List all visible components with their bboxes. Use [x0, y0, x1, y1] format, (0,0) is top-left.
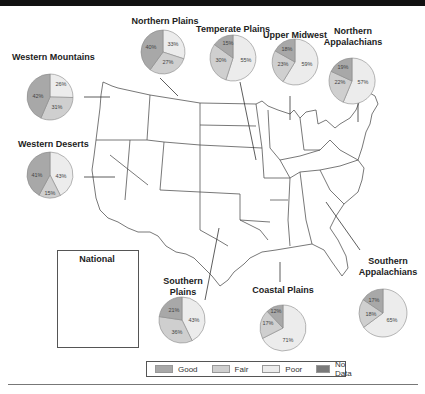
pie-coastal-plains: 71% 17% 12% [260, 305, 306, 351]
pie-temperate-plains: 55% 30% 15% [210, 35, 256, 81]
svg-text:55%: 55% [240, 57, 251, 63]
title-coastal-plains: Coastal Plains [248, 285, 318, 296]
svg-text:12%: 12% [270, 308, 281, 314]
svg-text:42%: 42% [32, 93, 43, 99]
title-line: Northern [322, 26, 384, 37]
svg-text:57%: 57% [357, 79, 368, 85]
legend: Good Fair Poor No Data [146, 361, 346, 377]
legend-item-no-data: No Data [316, 360, 356, 378]
pie-western-deserts: 43% 15% 41% [27, 152, 73, 198]
swatch-fair [212, 365, 230, 373]
title-western-deserts: Western Deserts [18, 139, 86, 150]
title-line: Southern [158, 276, 208, 287]
svg-text:17%: 17% [262, 320, 273, 326]
title-line: Southern [356, 256, 420, 267]
svg-text:21%: 21% [168, 307, 179, 313]
svg-text:15%: 15% [222, 40, 233, 46]
pie-western-mountains: 26% 31% 42% [27, 74, 73, 120]
title-line: Appalachians [322, 37, 384, 48]
legend-item-poor: Poor [262, 365, 302, 374]
bottom-divider [8, 384, 418, 385]
svg-text:18%: 18% [365, 311, 376, 317]
pie-northern-plains: 33% 27% 40% [141, 30, 185, 74]
svg-text:18%: 18% [281, 46, 292, 52]
legend-label: Good [178, 365, 198, 374]
svg-text:26%: 26% [55, 81, 66, 87]
legend-label: No Data [335, 360, 356, 378]
pie-southern-appalachians: 65% 18% 17% [359, 289, 407, 337]
svg-text:33%: 33% [167, 41, 178, 47]
svg-text:17%: 17% [368, 297, 379, 303]
pie-northern-appalachians: 57% 22% 19% [329, 58, 375, 104]
leader-northern-plains [160, 78, 178, 96]
legend-item-good: Good [155, 365, 198, 374]
svg-text:19%: 19% [337, 64, 348, 70]
title-line: Appalachians [356, 267, 420, 278]
svg-text:59%: 59% [301, 61, 312, 67]
pie-southern-plains: 43% 36% 21% [159, 297, 205, 343]
svg-text:23%: 23% [277, 61, 288, 67]
legend-item-fair: Fair [212, 365, 249, 374]
svg-text:22%: 22% [334, 79, 345, 85]
svg-text:40%: 40% [145, 44, 156, 50]
svg-text:43%: 43% [55, 173, 66, 179]
swatch-poor [262, 365, 280, 373]
title-line: Plains [158, 287, 208, 298]
svg-text:71%: 71% [282, 337, 293, 343]
legend-label: Fair [235, 365, 249, 374]
svg-text:30%: 30% [215, 57, 226, 63]
svg-text:65%: 65% [386, 317, 397, 323]
svg-text:41%: 41% [31, 172, 42, 178]
svg-text:31%: 31% [51, 104, 62, 110]
title-western-mountains: Western Mountains [12, 52, 90, 63]
svg-text:36%: 36% [171, 329, 182, 335]
title-southern-plains: Southern Plains [158, 276, 208, 298]
title-northern-appalachians: Northern Appalachians [322, 26, 384, 48]
title-upper-midwest: Upper Midwest [258, 30, 332, 41]
swatch-no-data [316, 365, 330, 373]
swatch-good [155, 365, 173, 373]
svg-text:15%: 15% [44, 190, 55, 196]
svg-text:27%: 27% [162, 59, 173, 65]
title-southern-appalachians: Southern Appalachians [356, 256, 420, 278]
title-national: National [70, 254, 124, 265]
pie-upper-midwest: 59% 23% 18% [272, 39, 318, 85]
legend-label: Poor [285, 365, 302, 374]
svg-text:43%: 43% [188, 317, 199, 323]
